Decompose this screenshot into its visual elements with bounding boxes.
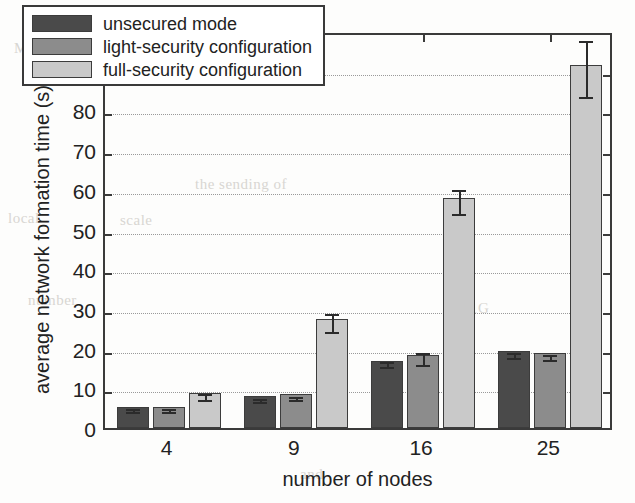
x-tick-label: 4 [127,437,207,458]
error-bar-cap-upper [289,397,303,399]
y-tick-label: 50 [73,221,96,242]
bar [371,361,403,428]
y-tick-label: 80 [73,101,96,122]
error-bar-cap-upper [253,399,267,401]
x-tick-label: 9 [254,437,334,458]
legend-item: light-security configuration [32,35,317,58]
error-bar [586,41,588,97]
legend-label: light-security configuration [103,38,312,56]
error-bar-cap-upper [543,355,557,357]
error-bar-cap-lower [380,367,394,369]
error-bar-cap-upper [452,190,466,192]
bar [443,198,475,428]
y-tick-label: 0 [84,419,96,440]
y-tick-label: 40 [73,260,96,281]
error-bar-cap-lower [452,214,466,216]
error-bar [332,314,334,331]
error-bar [459,190,461,214]
y-tick-label: 70 [73,141,96,162]
error-bar-cap-lower [325,332,339,334]
y-tick-label: 30 [73,300,96,321]
legend: unsecured modelight-security configurati… [22,5,325,86]
legend-swatch [32,61,92,78]
y-tick-label: 60 [73,181,96,202]
legend-item: unsecured mode [32,12,317,35]
error-bar-cap-upper [507,353,521,355]
figure-container: MACwiththe sending oflocalscalenumber1Ga… [0,0,635,503]
plot-area [103,33,612,430]
legend-swatch [32,38,92,55]
x-tick-label: 25 [508,437,588,458]
error-bar-cap-upper [416,353,430,355]
legend-swatch [32,15,92,32]
y-tick-label: 10 [73,379,96,400]
x-tick-label: 16 [381,437,461,458]
bar-series-layer [105,35,610,428]
y-tick-label: 20 [73,340,96,361]
error-bar-cap-upper [198,394,212,396]
bar [570,65,602,428]
legend-label: unsecured mode [103,15,237,33]
bar [316,319,348,428]
error-bar-cap-upper [380,362,394,364]
error-bar-cap-lower [126,412,140,414]
error-bar-cap-lower [507,358,521,360]
bar [498,351,530,428]
x-axis-label: number of nodes [103,468,612,491]
error-bar-cap-upper [325,314,339,316]
error-bar-cap-lower [162,412,176,414]
legend-label: full-security configuration [103,61,302,79]
legend-item: full-security configuration [32,58,317,81]
error-bar-cap-lower [543,360,557,362]
error-bar-cap-lower [198,400,212,402]
error-bar-cap-upper [579,41,593,43]
error-bar-cap-lower [253,402,267,404]
error-bar-cap-lower [579,97,593,99]
bar [534,353,566,428]
error-bar-cap-lower [416,365,430,367]
error-bar-cap-lower [289,400,303,402]
